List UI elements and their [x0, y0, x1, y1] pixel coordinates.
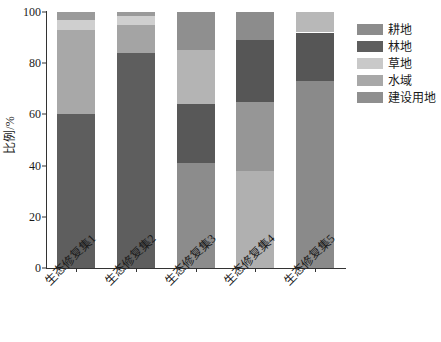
- bar-segment: [57, 20, 95, 30]
- legend-label: 林地: [388, 41, 412, 53]
- bar-segment: [177, 104, 215, 163]
- x-tick-mark: [76, 268, 77, 272]
- bar-segment: [117, 12, 155, 16]
- legend-item: 水域: [357, 73, 441, 88]
- bar-segment: [296, 33, 334, 82]
- y-axis-title: 比例/%: [0, 105, 18, 165]
- stacked-bar-chart: 比例/% 020406080100 生态修复集1生态修复集2生态修复集3生态修复…: [0, 0, 441, 342]
- legend-item: 林地: [357, 39, 441, 54]
- bar-segment: [57, 12, 95, 20]
- bar-segment: [236, 102, 274, 171]
- y-tick-mark: [42, 165, 46, 166]
- bar-stack: [296, 12, 334, 268]
- legend-swatch: [357, 41, 383, 52]
- bar-segment: [296, 12, 334, 32]
- bar-segment: [236, 12, 274, 40]
- x-tick-mark: [196, 268, 197, 272]
- legend-label: 耕地: [388, 24, 412, 36]
- legend-swatch: [357, 75, 383, 86]
- legend-item: 建设用地: [357, 90, 441, 105]
- plot-area: 020406080100: [46, 12, 345, 268]
- legend-label: 建设用地: [388, 92, 436, 104]
- x-tick-mark: [255, 268, 256, 272]
- y-tick-mark: [42, 114, 46, 115]
- legend-swatch: [357, 24, 383, 35]
- legend-swatch: [357, 58, 383, 69]
- x-tick-mark: [136, 268, 137, 272]
- legend-swatch: [357, 92, 383, 103]
- legend-label: 草地: [388, 58, 412, 70]
- y-tick-mark: [42, 63, 46, 64]
- bar-segment: [57, 30, 95, 114]
- bar-stack: [117, 12, 155, 268]
- bar-segment: [177, 50, 215, 104]
- bar-segment: [177, 12, 215, 50]
- y-tick-mark: [42, 216, 46, 217]
- y-tick-mark: [42, 268, 46, 269]
- legend-item: 耕地: [357, 22, 441, 37]
- y-tick-mark: [42, 12, 46, 13]
- legend-item: 草地: [357, 56, 441, 71]
- bar-stack: [177, 12, 215, 268]
- bar-stack: [57, 12, 95, 268]
- bar-segment: [117, 16, 155, 25]
- x-tick-mark: [315, 268, 316, 272]
- chart-legend: 耕地林地草地水域建设用地: [357, 22, 441, 107]
- bar-segment: [236, 40, 274, 101]
- legend-label: 水域: [388, 75, 412, 87]
- bar-segment: [117, 25, 155, 53]
- bar-stack: [236, 12, 274, 268]
